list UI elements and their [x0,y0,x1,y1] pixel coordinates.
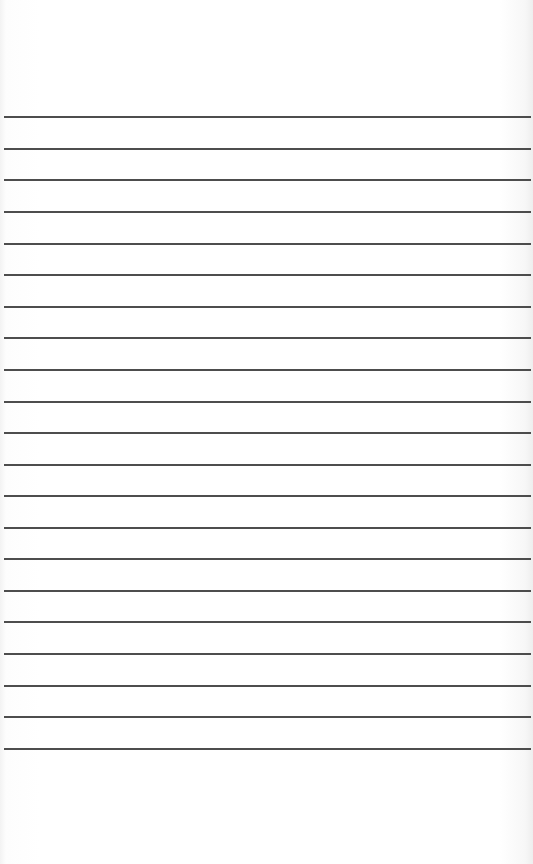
ruled-line [4,401,531,403]
ruled-line [4,148,531,150]
ruled-line [4,685,531,687]
ruled-line [4,179,531,181]
ruled-line [4,464,531,466]
ruled-line [4,653,531,655]
ruled-line [4,432,531,434]
ruled-line [4,243,531,245]
ruled-line [4,590,531,592]
ruled-line [4,337,531,339]
ruled-line [4,558,531,560]
ruled-line [4,621,531,623]
ruled-line [4,306,531,308]
ruled-line [4,527,531,529]
ruled-line [4,211,531,213]
ruled-line [4,748,531,750]
ruled-line [4,369,531,371]
ruled-line [4,116,531,118]
ruled-line [4,274,531,276]
lined-paper-sheet [0,0,533,864]
ruled-line [4,716,531,718]
ruled-line [4,495,531,497]
